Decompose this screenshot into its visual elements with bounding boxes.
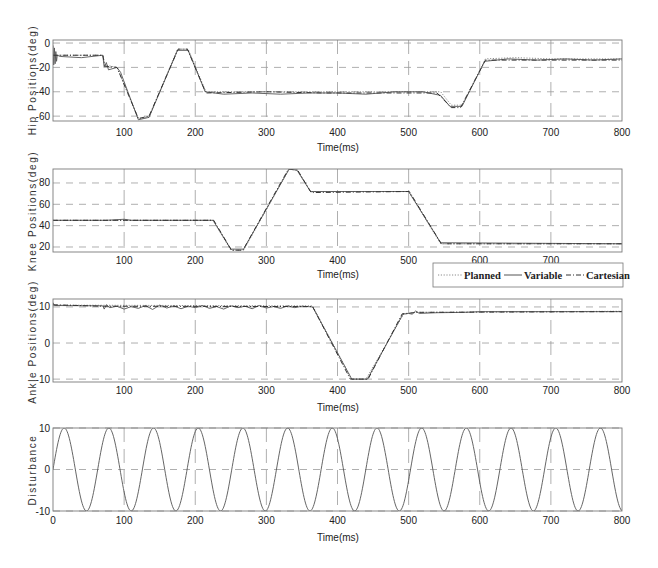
x-tick-label: 700 [543, 515, 560, 526]
x-tick-label: 500 [400, 255, 417, 266]
x-tick-label: 400 [329, 127, 346, 138]
y-tick-label: -10 [36, 506, 51, 517]
x-tick-label: 200 [187, 255, 204, 266]
x-tick-label: 100 [116, 515, 133, 526]
legend-label-planned: Planned [464, 270, 501, 281]
x-tick-label: 600 [471, 385, 488, 396]
x-tick-label: 0 [50, 515, 56, 526]
y-axis-label: Disturbance [27, 435, 38, 506]
y-tick-label: -60 [36, 111, 51, 122]
disturbance-subplot: Disturbance Time(ms) 0100200300400500600… [27, 423, 631, 544]
y-axis-label: Ankle Positions(deg) [27, 280, 38, 404]
x-axis-label: Time(ms) [317, 142, 359, 153]
x-tick-label: 500 [400, 385, 417, 396]
x-tick-label: 100 [116, 255, 133, 266]
y-tick-label: 80 [39, 177, 51, 188]
x-tick-label: 300 [258, 515, 275, 526]
x-tick-label: 400 [329, 515, 346, 526]
y-tick-label: 60 [39, 199, 51, 210]
y-tick-label: 0 [44, 464, 50, 475]
x-tick-label: 800 [614, 385, 631, 396]
x-tick-label: 400 [329, 255, 346, 266]
y-tick-label: -10 [36, 374, 51, 385]
x-tick-label: 600 [471, 127, 488, 138]
legend: Planned Variable Cartesian [433, 263, 630, 287]
x-tick-label: 600 [471, 515, 488, 526]
x-axis-label: Time(ms) [317, 532, 359, 543]
x-tick-label: 200 [187, 127, 204, 138]
x-tick-label: 700 [543, 385, 560, 396]
y-tick-label: 0 [44, 338, 50, 349]
legend-label-cartesian: Cartesian [586, 270, 630, 281]
y-tick-label: 10 [39, 423, 51, 434]
knee-positions-subplot: Knee Positions(deg) Time(ms) 10020030040… [27, 151, 622, 280]
ankle-positions-subplot: Ankle Positions(deg) Time(ms) 1002003004… [27, 280, 631, 413]
x-tick-label: 100 [116, 127, 133, 138]
x-tick-label: 800 [614, 515, 631, 526]
figure: Hip Positions(deg) Time(ms) 100200300400… [0, 0, 658, 568]
x-axis-label: Time(ms) [317, 402, 359, 413]
x-tick-label: 300 [258, 127, 275, 138]
y-tick-label: 10 [39, 301, 51, 312]
x-tick-label: 500 [400, 515, 417, 526]
x-tick-label: 800 [614, 127, 631, 138]
x-tick-label: 700 [543, 127, 560, 138]
y-tick-label: 0 [44, 38, 50, 49]
x-tick-label: 100 [116, 385, 133, 396]
y-tick-label: 20 [39, 241, 51, 252]
y-tick-label: -20 [36, 62, 51, 73]
y-tick-label: -40 [36, 86, 51, 97]
y-tick-label: 40 [39, 220, 51, 231]
x-tick-label: 500 [400, 127, 417, 138]
figure-canvas: Hip Positions(deg) Time(ms) 100200300400… [0, 0, 658, 568]
x-axis-label: Time(ms) [317, 269, 359, 280]
x-tick-label: 400 [329, 385, 346, 396]
hip-positions-subplot: Hip Positions(deg) Time(ms) 100200300400… [27, 25, 631, 153]
grid [53, 40, 622, 121]
x-tick-label: 300 [258, 255, 275, 266]
y-axis-label: Knee Positions(deg) [27, 151, 38, 271]
x-tick-label: 200 [187, 515, 204, 526]
legend-label-variable: Variable [524, 270, 562, 281]
x-tick-label: 300 [258, 385, 275, 396]
grid [53, 169, 622, 252]
x-tick-label: 200 [187, 385, 204, 396]
